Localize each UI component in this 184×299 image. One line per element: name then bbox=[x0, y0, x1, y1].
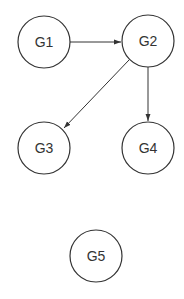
graph-diagram: G1 G2 G3 G4 G5 bbox=[0, 0, 184, 299]
node-g5: G5 bbox=[70, 230, 122, 282]
node-g1: G1 bbox=[18, 16, 70, 68]
node-label-g5: G5 bbox=[87, 248, 106, 264]
node-g3: G3 bbox=[18, 122, 70, 174]
node-label-g3: G3 bbox=[35, 140, 54, 156]
node-label-g4: G4 bbox=[139, 140, 158, 156]
node-g4: G4 bbox=[122, 122, 174, 174]
node-label-g1: G1 bbox=[35, 34, 54, 50]
node-g2: G2 bbox=[122, 15, 174, 67]
node-label-g2: G2 bbox=[139, 33, 158, 49]
edge-g2-g3 bbox=[64, 60, 129, 128]
